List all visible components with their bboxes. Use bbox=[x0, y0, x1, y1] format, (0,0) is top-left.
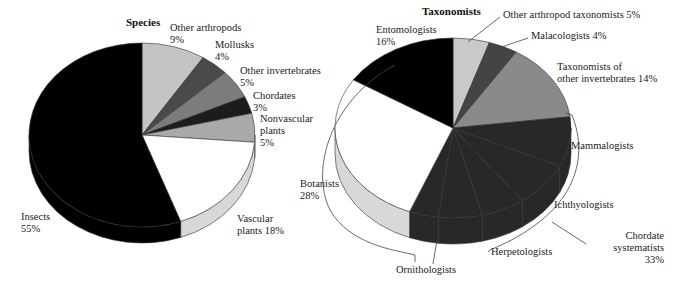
leader-other-arthropod bbox=[468, 17, 500, 42]
label-nonvascular-plants: Nonvascularplants5% bbox=[260, 113, 314, 148]
label-mammalogists: Mammalogists bbox=[571, 140, 633, 151]
label-other-arthropod-taxonomists: Other arthropod taxonomists 5% bbox=[503, 9, 641, 20]
label-chordate-other: Chordatesystematists33% bbox=[613, 230, 664, 265]
label-other-invertebrates: Other invertebrates5% bbox=[240, 65, 321, 88]
label-malacologists: Malacologists 4% bbox=[531, 30, 607, 41]
label-ornithologists: Ornithologists bbox=[396, 264, 456, 275]
label-herpetologists: Herpetologists bbox=[491, 246, 552, 257]
label-botanists: Botanists28% bbox=[300, 178, 339, 201]
taxonomists-pie bbox=[335, 38, 571, 244]
species-title: Species bbox=[126, 16, 161, 28]
leader-ornithologists bbox=[433, 240, 437, 264]
label-mollusks: Mollusks4% bbox=[215, 39, 254, 62]
label-chordates: Chordates3% bbox=[253, 90, 296, 113]
taxonomists-title: Taxonomists bbox=[422, 5, 482, 17]
chart-canvas: SpeciesTaxonomistsOther arthropods9%Moll… bbox=[0, 0, 680, 291]
label-ichthyologists: Ichthyologists bbox=[554, 199, 614, 210]
label-insects: Insects55% bbox=[21, 211, 50, 234]
leader-malacologists bbox=[493, 38, 528, 50]
leader-chordate-systematists bbox=[552, 222, 586, 244]
side-herpetologists bbox=[438, 215, 482, 244]
label-taxonomists-of-other-invertebrates: Taxonomists ofother invertebrates 14% bbox=[557, 61, 658, 84]
species-pie bbox=[29, 43, 255, 243]
label-vascular-plants: Vascularplants 18% bbox=[237, 213, 284, 236]
